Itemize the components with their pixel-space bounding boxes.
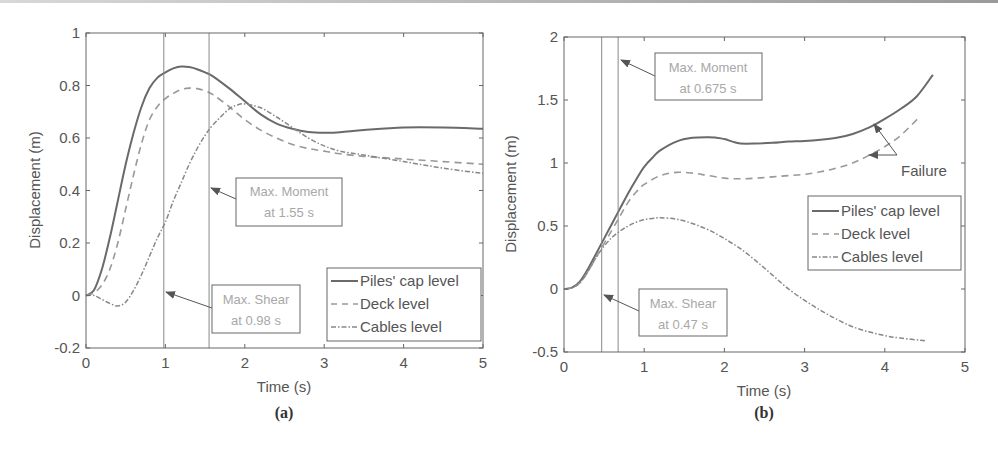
chart-b-ytick: 1.5: [537, 91, 558, 108]
chart-a-ylabel: Displacement (m): [26, 131, 43, 249]
chart-b-moment-text: Max. Moment: [669, 60, 748, 75]
chart-a-xlabel: Time (s): [257, 378, 311, 395]
chart-a-xtick: 3: [320, 354, 328, 371]
arrow-icon: [211, 188, 236, 199]
arrow-icon: [604, 295, 639, 311]
chart-a-moment-text: Max. Moment: [250, 184, 329, 199]
chart-b-xtick: 3: [800, 358, 808, 375]
chart-b-ytick: 0.5: [537, 217, 558, 234]
chart-b-legend: Piles' cap level Deck level Cables level: [808, 196, 961, 270]
legend-label: Piles' cap level: [360, 272, 459, 289]
chart-a-ytick: 0.6: [59, 129, 80, 146]
legend-label: Cables level: [360, 318, 442, 335]
chart-a-ytick: -0.2: [54, 339, 80, 356]
chart-b-vlines: [602, 37, 618, 352]
chart-a-xtick: 5: [479, 354, 487, 371]
chart-a-ytick: 0.8: [59, 77, 80, 94]
chart-b: 0 1 2 3 4 5 -0.5 0 0.5 1 1.5 2 Time (s) …: [502, 28, 969, 422]
legend-label: Deck level: [360, 295, 429, 312]
chart-a: 0 1 2 3 4 5 -0.2 0 0.2 0.4 0.6 0.8 1 Tim…: [26, 24, 487, 422]
chart-b-shear-text: Max. Shear: [650, 296, 717, 311]
chart-a-ytick: 0: [72, 287, 80, 304]
chart-b-xtick: 1: [640, 358, 648, 375]
chart-a-shear-text: Max. Shear: [223, 292, 290, 307]
chart-b-xtick: 4: [881, 358, 889, 375]
chart-b-moment-time: at 0.675 s: [679, 81, 737, 96]
chart-a-ytick: 0.2: [59, 234, 80, 251]
chart-a-ytick: 1: [72, 24, 80, 41]
chart-a-ytick: 0.4: [59, 182, 80, 199]
figure: 0 1 2 3 4 5 -0.2 0 0.2 0.4 0.6 0.8 1 Tim…: [0, 0, 998, 457]
chart-b-ytick: 2: [550, 28, 558, 45]
chart-b-ytick: 0: [550, 280, 558, 297]
chart-b-xtick: 0: [560, 358, 568, 375]
chart-b-ylabel: Displacement (m): [502, 135, 519, 253]
chart-a-moment-time: at 1.55 s: [264, 205, 314, 220]
legend-label: Deck level: [841, 225, 910, 242]
chart-a-shear-time: at 0.98 s: [231, 313, 281, 328]
arrow-icon: [166, 292, 212, 308]
chart-b-ytick: -0.5: [532, 343, 558, 360]
arrow-icon: [621, 60, 655, 76]
chart-b-xlabel: Time (s): [737, 382, 791, 399]
chart-b-failure-label: Failure: [901, 162, 947, 179]
chart-a-xtick: 1: [161, 354, 169, 371]
chart-b-shear-time: at 0.47 s: [658, 317, 708, 332]
chart-b-xtick: 5: [961, 358, 969, 375]
chart-a-xtick: 0: [82, 354, 90, 371]
legend-label: Cables level: [841, 248, 923, 265]
chart-a-xtick: 2: [241, 354, 249, 371]
chart-a-legend: Piles' cap level Deck level Cables level: [327, 268, 481, 341]
chart-a-xtick: 4: [399, 354, 407, 371]
chart-b-ytick: 1: [550, 154, 558, 171]
chart-a-vlines: [164, 33, 209, 348]
chart-a-caption: (a): [275, 404, 294, 422]
chart-b-caption: (b): [754, 404, 774, 422]
chart-b-xtick: 2: [720, 358, 728, 375]
legend-label: Piles' cap level: [841, 202, 940, 219]
